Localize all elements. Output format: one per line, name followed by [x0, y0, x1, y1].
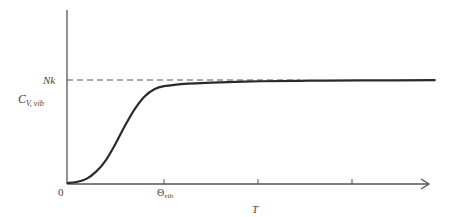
origin-label: 0: [58, 186, 64, 198]
cv-curve: [67, 80, 436, 183]
asymptote-label: Nk: [42, 74, 56, 86]
x-axis-label: T: [252, 203, 259, 215]
x-tick-label-theta: Θvib: [157, 187, 174, 200]
heat-capacity-diagram: 0 Nk CV, vib Θvib T: [0, 0, 451, 217]
plot-canvas: 0 Nk CV, vib Θvib T: [0, 0, 451, 217]
y-axis-label: CV, vib: [18, 92, 44, 108]
